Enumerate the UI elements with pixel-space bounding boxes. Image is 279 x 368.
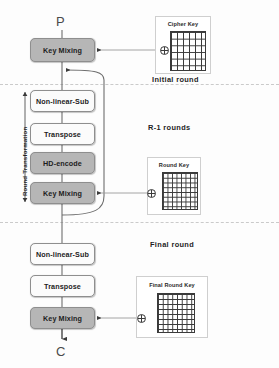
round-key-title: Round Key <box>148 162 200 168</box>
section-label-initial-round: Initial round <box>152 75 199 84</box>
cipher-key-panel: Cipher Key <box>155 16 211 74</box>
block-label: HD-encode <box>43 159 82 168</box>
block-label: Key Mixing <box>43 189 82 198</box>
block-label: Transpose <box>44 282 81 291</box>
block-final-non-linear-sub[interactable]: Non-linear-Sub <box>30 243 95 265</box>
cipher-diagram: P C Round Transformation Key Mixing Non-… <box>0 0 279 368</box>
ciphertext-label: C <box>56 344 65 359</box>
block-final-transpose[interactable]: Transpose <box>30 275 95 297</box>
round-key-grid <box>162 172 198 210</box>
block-initial-key-mixing[interactable]: Key Mixing <box>30 38 95 62</box>
divider-initial-middle <box>0 84 279 85</box>
section-label-final-round: Final round <box>150 240 194 249</box>
cipher-key-grid <box>170 31 206 71</box>
block-round-key-mixing[interactable]: Key Mixing <box>30 182 95 204</box>
section-label-r-1-rounds: R-1 rounds <box>148 123 191 132</box>
block-label: Non-linear-Sub <box>36 97 89 106</box>
final-round-key-panel: Final Round Key <box>136 276 208 338</box>
block-round-non-linear-sub[interactable]: Non-linear-Sub <box>30 90 95 112</box>
block-label: Key Mixing <box>43 314 82 323</box>
xor-icon-round-key <box>147 189 156 198</box>
divider-middle-final <box>0 222 279 223</box>
block-label: Key Mixing <box>43 46 82 55</box>
plaintext-label: P <box>56 14 65 29</box>
block-round-transpose[interactable]: Transpose <box>30 123 95 145</box>
block-label: Transpose <box>44 130 81 139</box>
round-transformation-label: Round Transformation <box>21 127 28 196</box>
block-final-key-mixing[interactable]: Key Mixing <box>30 307 95 329</box>
final-round-key-title: Final Round Key <box>137 282 207 288</box>
block-label: Non-linear-Sub <box>36 250 89 259</box>
block-round-hd-encode[interactable]: HD-encode <box>30 152 95 174</box>
round-key-panel: Round Key <box>147 157 201 215</box>
final-round-key-grid <box>157 293 195 333</box>
cipher-key-title: Cipher Key <box>156 21 210 27</box>
xor-icon-cipher-key <box>160 46 169 55</box>
xor-icon-final-round-key <box>137 314 146 323</box>
